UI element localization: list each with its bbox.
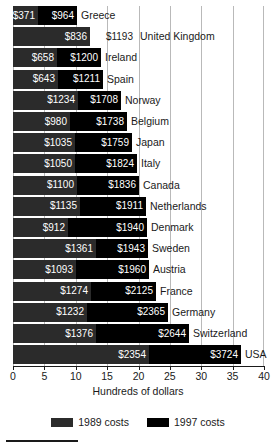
legend-swatch-1997 <box>147 418 169 427</box>
x-tick-label-35: 35 <box>227 371 239 382</box>
stacked-bar: $1050$1824 <box>13 154 137 173</box>
bar-row: $643$1211Spain <box>13 70 134 89</box>
bar-value-1997: $1738 <box>96 117 127 127</box>
country-label: Denmark <box>147 218 194 237</box>
bar-row: $912$1940Denmark <box>13 218 194 237</box>
bar-value-1989: $980 <box>45 117 70 127</box>
country-label: Japan <box>132 133 165 152</box>
bar-value-1997: $1759 <box>101 138 132 148</box>
stacked-bar: $658$1200 <box>13 48 101 67</box>
country-label: Germany <box>168 303 215 322</box>
stacked-bar: $1234$1708 <box>13 91 121 110</box>
bar-segment-1989: $1234 <box>13 91 78 110</box>
bar-value-1997: $1708 <box>90 95 121 105</box>
bar-row: $658$1200Ireland <box>13 48 137 67</box>
bar-value-1989: $1093 <box>45 265 76 275</box>
legend-label-1997: 1997 costs <box>174 417 225 428</box>
x-tick-label-0: 0 <box>10 371 16 382</box>
x-tick-label-15: 15 <box>101 371 113 382</box>
stacked-bar: $1100$1836 <box>13 176 139 195</box>
bar-row: $371$964Greece <box>13 6 115 25</box>
legend-item-1989: 1989 costs <box>51 417 129 428</box>
bar-segment-1997: $1824 <box>75 154 137 173</box>
bar-row: $836$1193United Kingdom <box>13 27 215 46</box>
stacked-bar: $1093$1960 <box>13 260 149 279</box>
bar-segment-1997: $1200 <box>57 48 101 67</box>
bar-segment-1997: $1836 <box>77 176 139 195</box>
bar-value-1989: $1232 <box>56 307 87 317</box>
x-tick-label-5: 5 <box>41 371 47 382</box>
bar-segment-1997: $3724 <box>149 345 241 364</box>
bar-segment-1989: $658 <box>13 48 57 67</box>
x-tick-label-10: 10 <box>70 371 82 382</box>
stacked-bar: $1232$2365 <box>13 303 168 322</box>
bar-row: $1093$1960Austria <box>13 260 186 279</box>
bar-row: $1234$1708Norway <box>13 91 161 110</box>
stacked-bar: $836$1193 <box>13 27 136 46</box>
x-tick-label-30: 30 <box>195 371 207 382</box>
bar-value-1989: $371 <box>13 11 38 21</box>
country-label: Switzerland <box>189 324 247 343</box>
bar-value-1989: $658 <box>32 53 57 63</box>
bar-segment-1997: $1960 <box>76 260 149 279</box>
bar-segment-1989: $1274 <box>13 282 91 301</box>
bar-segment-1997: $2365 <box>87 303 168 322</box>
bar-segment-1989: $1361 <box>13 239 96 258</box>
x-axis-label: Hundreds of dollars <box>0 385 276 397</box>
legend-swatch-1989 <box>51 418 73 427</box>
bar-value-1997: $2365 <box>137 307 168 317</box>
bar-value-1989: $1361 <box>65 244 96 254</box>
bar-value-1989: $2354 <box>118 350 149 360</box>
bar-value-1997: $3724 <box>210 350 241 360</box>
footer-rule <box>6 440 78 442</box>
bar-row: $1050$1824Italy <box>13 154 160 173</box>
legend: 1989 costs 1997 costs <box>0 417 276 428</box>
bar-row: $2354$3724USA <box>13 345 267 364</box>
bar-segment-1997: $1738 <box>70 112 127 131</box>
legend-label-1989: 1989 costs <box>78 417 129 428</box>
stacked-bar: $643$1211 <box>13 70 103 89</box>
country-label: France <box>156 282 193 301</box>
country-label: Spain <box>103 70 134 89</box>
country-label: Greece <box>77 6 115 25</box>
country-label: USA <box>241 345 267 364</box>
x-tick-label-25: 25 <box>164 371 176 382</box>
bar-segment-1989: $1050 <box>13 154 75 173</box>
country-label: Sweden <box>148 239 190 258</box>
bar-segment-1989: $980 <box>13 112 70 131</box>
bar-segment-1989: $1376 <box>13 324 96 343</box>
stacked-bar: $980$1738 <box>13 112 127 131</box>
bar-value-1989: $643 <box>33 74 58 84</box>
stacked-bar: $1274$2125 <box>13 282 156 301</box>
bar-segment-1997: $1943 <box>96 239 148 258</box>
bar-value-1989: $1376 <box>65 329 96 339</box>
bar-segment-1989: $1093 <box>13 260 76 279</box>
bar-segment-1989: $1035 <box>13 133 75 152</box>
bar-value-1997: $1960 <box>118 265 149 275</box>
bar-value-1997: $1943 <box>117 244 148 254</box>
bar-segment-1989: $912 <box>13 218 68 237</box>
stacked-bar: $1135$1911 <box>13 197 146 216</box>
bar-segment-1997: $1911 <box>80 197 146 216</box>
bar-row: $980$1738Belgium <box>13 112 169 131</box>
bar-row: $1274$2125France <box>13 282 193 301</box>
bar-segment-1989: $1100 <box>13 176 77 195</box>
bar-row: $1100$1836Canada <box>13 176 180 195</box>
bar-segment-1997: $1759 <box>75 133 132 152</box>
stacked-bar: $1376$2644 <box>13 324 189 343</box>
bar-row: $1232$2365Germany <box>13 303 215 322</box>
bar-segment-1997: $964 <box>38 6 77 25</box>
bar-row: $1376$2644Switzerland <box>13 324 247 343</box>
bar-value-1997: $1824 <box>106 159 137 169</box>
country-label: Belgium <box>127 112 169 131</box>
bar-row: $1361$1943Sweden <box>13 239 190 258</box>
bar-value-1989: $1100 <box>47 180 77 190</box>
bar-segment-1997: $2644 <box>96 324 189 343</box>
bar-value-1997: $2644 <box>158 329 189 339</box>
plot-area: $371$964Greece$836$1193United Kingdom$65… <box>13 6 264 366</box>
stacked-bar: $1035$1759 <box>13 133 132 152</box>
bar-segment-1997: $1193 <box>90 27 136 46</box>
bar-segment-1989: $371 <box>13 6 38 25</box>
bar-segment-1989: $643 <box>13 70 58 89</box>
bar-value-1997: $1836 <box>108 180 139 190</box>
